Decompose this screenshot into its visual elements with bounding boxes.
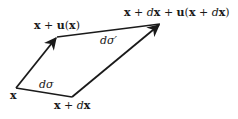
label-x: x — [10, 90, 17, 101]
label-x-plus-dx-plus-u: x + dx + u(x + dx) — [124, 7, 230, 18]
label-dsigma-prime: dσ′ — [100, 35, 117, 46]
label-dsigma: dσ — [39, 79, 54, 90]
label-x-plus-u: x + u(x) — [34, 20, 80, 31]
label-x-plus-dx: x + dx — [54, 100, 90, 111]
